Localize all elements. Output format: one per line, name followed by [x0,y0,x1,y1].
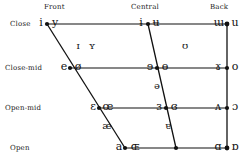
column-header-central: Central [131,3,159,11]
vowel-closed-reversed-epsilon: ɞ [169,101,179,112]
vowel-small-capital-oe: ɶ [129,141,141,152]
column-header-back: Back [210,3,228,11]
vowel-o-slash: ø [73,61,83,72]
vowel-turned-m: ɯ [213,17,225,28]
point-open-central [174,146,178,150]
vowel-oe-ligature: œ [102,101,114,112]
row-label-open-mid: Open-mid [5,104,41,112]
point-close-mid-back [225,66,229,70]
vowel-turned-a: ɐ [163,121,173,131]
vowel-schwa: ə [152,81,162,91]
vowel-ae-ligature: æ [101,121,113,131]
point-open-mid-central [164,106,168,110]
point-open-mid-back [225,106,229,110]
vowel-i: i [36,17,46,28]
vowel-turned-v: ʌ [213,101,223,112]
vowel-y: y [50,17,60,28]
column-header-front: Front [44,3,65,11]
vowel-reversed-e: ɘ [145,61,155,72]
vowel-upsilon: ʊ [180,41,190,51]
vowel-open-o: ɔ [230,101,240,112]
vowel-script-a: ɑ [213,141,223,152]
vowel-epsilon: ɛ [88,101,98,112]
point-close-central [146,22,150,26]
vowel-turned-script-a: ɒ [230,141,240,152]
vowel-reversed-epsilon: ɜ [154,101,164,112]
vowel-a: a [114,141,124,152]
point-close-back [225,22,230,27]
row-label-close: Close [10,20,31,28]
vowel-e: e [59,61,69,72]
vowel-u: u [230,17,240,28]
vowel-barred-i: ɨ [136,17,146,28]
row-label-open: Open [10,144,30,152]
vowel-small-capital-y: ʏ [87,41,97,51]
vowel-o: o [230,61,240,72]
point-close-mid-central [155,66,159,70]
point-open-back [225,146,230,151]
front-edge-line [47,24,125,148]
row-label-close-mid: Close-mid [5,64,42,72]
vowel-rams-horn: ɤ [213,61,223,72]
vowel-barred-u: ʉ [151,17,161,28]
ipa-vowel-chart: Front Central Back Close Close-mid Open-… [0,0,242,162]
vowel-barred-o: ɵ [160,61,170,72]
vowel-small-capital-i: ɪ [73,41,83,51]
